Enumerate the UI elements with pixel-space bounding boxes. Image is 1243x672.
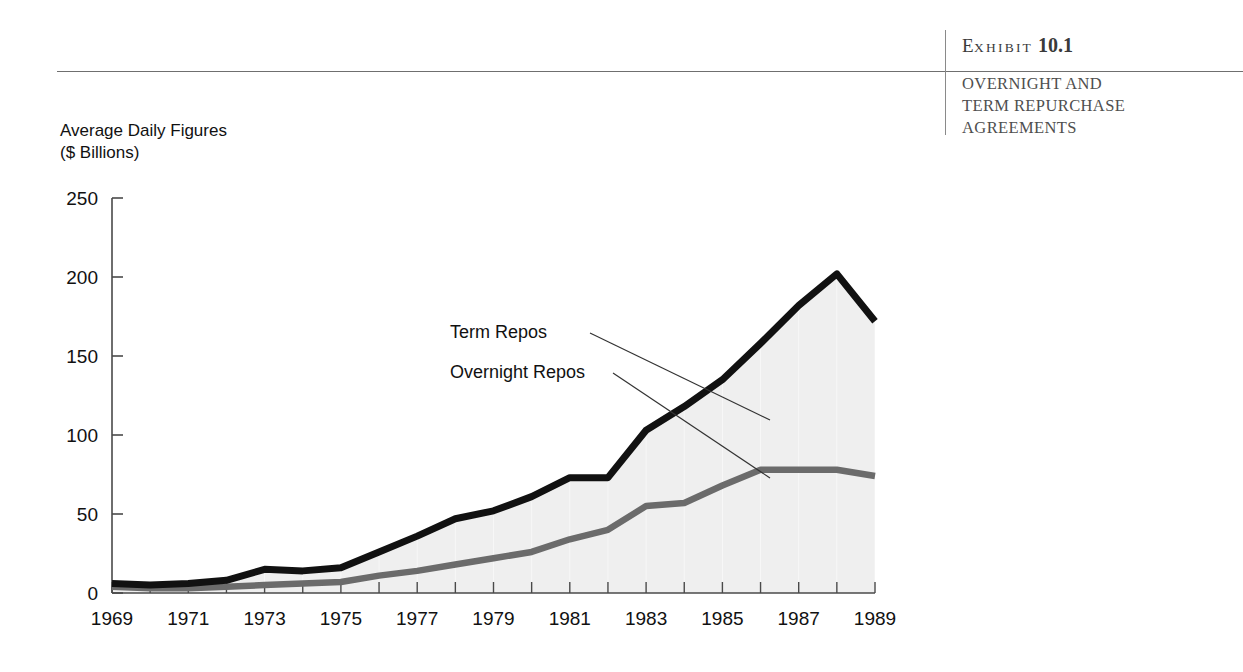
y-tick-label: 150	[66, 346, 98, 367]
y-tick-label: 0	[87, 583, 98, 604]
x-tick-label: 1985	[701, 608, 743, 629]
x-tick-label: 1971	[167, 608, 209, 629]
x-tick-label: 1981	[549, 608, 591, 629]
y-tick-label: 250	[66, 188, 98, 209]
x-tick-label: 1983	[625, 608, 667, 629]
y-tick-label: 100	[66, 425, 98, 446]
annotation-label-overnight-repos: Overnight Repos	[450, 362, 585, 382]
x-tick-label: 1987	[778, 608, 820, 629]
y-tick-label: 200	[66, 267, 98, 288]
repo-area-chart: 2502001501005001969197119731975197719791…	[0, 0, 1243, 672]
chart-canvas: 2502001501005001969197119731975197719791…	[0, 0, 1243, 672]
x-tick-label: 1977	[396, 608, 438, 629]
x-tick-label: 1973	[243, 608, 285, 629]
x-tick-label: 1989	[854, 608, 896, 629]
x-tick-label: 1979	[472, 608, 514, 629]
y-tick-label: 50	[77, 504, 98, 525]
exhibit-page: EXHIBIT10.1 OVERNIGHT AND TERM REPURCHAS…	[0, 0, 1243, 672]
annotation-label-term-repos: Term Repos	[450, 322, 547, 342]
x-tick-label: 1969	[91, 608, 133, 629]
x-tick-label: 1975	[320, 608, 362, 629]
